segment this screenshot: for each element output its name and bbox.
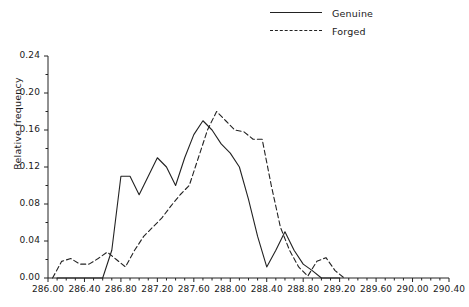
y-axis-tick-label: 0.24: [6, 50, 40, 60]
y-axis-tick-label: 0.08: [6, 198, 40, 208]
axis-lines: [48, 56, 449, 278]
x-axis-tick-label: 290.40: [426, 284, 469, 294]
data-series-forged: [53, 112, 345, 279]
data-series-genuine: [57, 121, 340, 278]
y-axis-tick-label: 0.12: [6, 161, 40, 171]
y-axis-tick-label: 0.00: [6, 272, 40, 282]
y-axis-tick-label: 0.16: [6, 124, 40, 134]
y-axis-tick-label: 0.04: [6, 235, 40, 245]
y-axis-tick-label: 0.20: [6, 87, 40, 97]
